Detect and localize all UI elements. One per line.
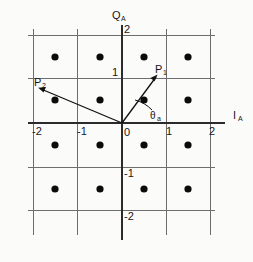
- vector-p2-line: [41, 89, 122, 123]
- angle-label-main: θ: [150, 110, 156, 121]
- constellation-point: [51, 53, 58, 60]
- tick-label-y-neg2: -2: [124, 210, 134, 222]
- tick-label-x-neg1: -1: [77, 125, 87, 137]
- constellation-point: [96, 96, 103, 103]
- constellation-point: [51, 96, 58, 103]
- constellation-point: [51, 141, 58, 148]
- constellation-point: [140, 141, 147, 148]
- vector-p2: [38, 87, 122, 123]
- tick-label-y-neg1: -1: [124, 167, 134, 179]
- tick-label-x-pos2: 2: [209, 125, 215, 137]
- q-axis-label-sub: A: [121, 15, 126, 22]
- constellation-point: [140, 53, 147, 60]
- vector-p2-label-sub: 2: [42, 82, 46, 89]
- q-axis-label-main: Q: [112, 9, 121, 21]
- constellation-svg: Q A I A -2 -1 0 1 2 2 1 -1 -2 P 1 P 2 θ: [0, 0, 253, 262]
- constellation-point: [184, 53, 191, 60]
- q-axis-label: Q A: [112, 9, 126, 22]
- constellation-point: [96, 185, 103, 192]
- angle-label: θ a: [150, 110, 161, 122]
- constellation-point: [140, 185, 147, 192]
- constellation-point: [51, 185, 58, 192]
- i-axis-label: I A: [233, 109, 243, 122]
- tick-label-y-pos2: 2: [124, 23, 130, 35]
- vector-p2-label-main: P: [34, 76, 41, 88]
- tick-label-y-pos1: 1: [112, 66, 118, 78]
- vector-p1-label-main: P: [155, 63, 162, 75]
- constellation-point: [96, 53, 103, 60]
- constellation-figure: Q A I A -2 -1 0 1 2 2 1 -1 -2 P 1 P 2 θ: [0, 0, 253, 262]
- tick-label-x-zero: 0: [124, 126, 130, 138]
- i-axis-label-sub: A: [238, 115, 243, 122]
- tick-label-x-pos1: 1: [166, 125, 172, 137]
- constellation-point: [184, 96, 191, 103]
- angle-label-sub: a: [157, 115, 161, 122]
- tick-label-x-neg2: -2: [32, 125, 42, 137]
- vector-p1-label-sub: 1: [163, 69, 167, 76]
- constellation-point: [96, 141, 103, 148]
- constellation-point: [184, 141, 191, 148]
- constellation-point: [184, 185, 191, 192]
- i-axis-label-main: I: [233, 109, 236, 121]
- vector-p1-label: P 1: [155, 63, 167, 76]
